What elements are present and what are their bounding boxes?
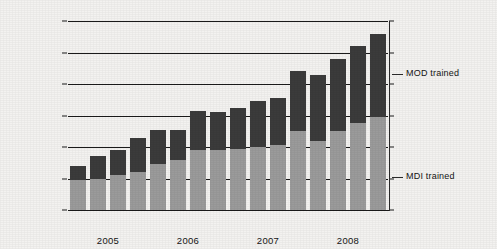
- bar-segment-mod: [230, 108, 246, 149]
- bar-segment-mdi: [370, 117, 386, 210]
- bar-segment-mod: [90, 156, 106, 178]
- bar: [70, 21, 86, 210]
- bar-segment-mod: [330, 59, 346, 131]
- x-axis-label: 2007: [238, 235, 298, 246]
- bar: [230, 21, 246, 210]
- bar-segment-mod: [170, 130, 186, 160]
- bar: [130, 21, 146, 210]
- bar-segment-mod: [270, 98, 286, 145]
- bar: [210, 21, 226, 210]
- y-tick-mark: [62, 178, 67, 179]
- bar-segment-mod: [150, 130, 166, 165]
- bar: [150, 21, 166, 210]
- bar-segment-mdi: [70, 180, 86, 210]
- legend-label-mdi: MDI trained: [406, 171, 455, 181]
- bar: [170, 21, 186, 210]
- bar: [290, 21, 306, 210]
- y-tick-mark: [62, 21, 67, 22]
- bar-segment-mdi: [350, 123, 366, 210]
- bar-segment-mdi: [310, 141, 326, 210]
- bar: [190, 21, 206, 210]
- bar: [270, 21, 286, 210]
- y-tick-mark: [62, 147, 67, 148]
- bar-segment-mod: [210, 112, 226, 150]
- bar-segment-mdi: [170, 160, 186, 210]
- bar: [110, 21, 126, 210]
- bar: [90, 21, 106, 210]
- stacked-bar-chart: 0100,000200,000300,000400,000500,000600,…: [0, 0, 497, 249]
- bar-segment-mod: [310, 75, 326, 141]
- bar-segment-mdi: [250, 147, 266, 210]
- legend-leader-mod: [392, 74, 403, 75]
- y-tick-mark: [62, 210, 67, 211]
- legend-label-mod: MOD trained: [406, 68, 459, 78]
- bar-segment-mdi: [210, 150, 226, 210]
- bar-segment-mod: [110, 150, 126, 175]
- bar-segment-mod: [190, 111, 206, 150]
- bar: [250, 21, 266, 210]
- y-tick-mark: [62, 115, 67, 116]
- bar-segment-mdi: [110, 175, 126, 210]
- bar-segment-mdi: [90, 179, 106, 211]
- x-axis-line: [68, 210, 390, 211]
- y-tick-mark: [62, 84, 67, 85]
- bar-segment-mod: [70, 166, 86, 180]
- x-axis-label: 2005: [78, 235, 138, 246]
- bars-layer: [68, 21, 388, 210]
- bar-segment-mdi: [130, 172, 146, 210]
- bar-segment-mdi: [190, 150, 206, 210]
- y-tick-mark: [62, 52, 67, 53]
- bar: [310, 21, 326, 210]
- x-axis-label: 2006: [158, 235, 218, 246]
- bar-segment-mdi: [270, 145, 286, 210]
- bar-segment-mod: [350, 46, 366, 123]
- bar: [370, 21, 386, 210]
- plot-area: 0100,000200,000300,000400,000500,000600,…: [68, 21, 388, 210]
- bar-segment-mod: [130, 138, 146, 173]
- x-axis-label: 2008: [318, 235, 378, 246]
- right-axis-line: [389, 21, 390, 211]
- bar-segment-mod: [370, 34, 386, 117]
- bar: [350, 21, 366, 210]
- bar-segment-mod: [290, 71, 306, 131]
- bar-segment-mdi: [290, 131, 306, 210]
- bar-segment-mdi: [150, 164, 166, 210]
- bar-segment-mdi: [230, 149, 246, 210]
- bar-segment-mdi: [330, 131, 346, 210]
- legend-leader-mdi: [392, 177, 403, 178]
- bar-segment-mod: [250, 101, 266, 147]
- bar: [330, 21, 346, 210]
